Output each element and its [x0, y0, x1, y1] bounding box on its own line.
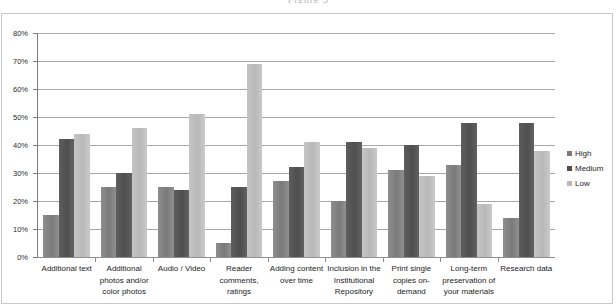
y-tick-label: 0% — [2, 253, 28, 262]
y-tick-label: 60% — [2, 85, 28, 94]
x-axis-label-line: over time — [264, 275, 329, 287]
x-axis-label-line: ratings — [206, 286, 271, 298]
bar-medium — [461, 123, 477, 257]
category-separator — [498, 258, 499, 262]
legend-swatch-icon — [567, 151, 572, 156]
x-axis-label-line: photos and/or — [91, 275, 156, 287]
bar-high — [388, 170, 404, 257]
x-axis-label-line: demand — [379, 286, 444, 298]
legend-label: Medium — [575, 164, 603, 173]
bar-low — [477, 204, 493, 257]
x-axis-label-line: Additional — [91, 263, 156, 275]
category-separator — [95, 258, 96, 262]
bar-low — [247, 64, 263, 257]
bar-medium — [346, 142, 362, 257]
bar-medium — [59, 139, 75, 257]
bar-high — [503, 218, 519, 257]
x-axis-label: Additional text — [34, 263, 99, 275]
y-tick-label: 20% — [2, 197, 28, 206]
bar-low — [132, 128, 148, 257]
bar-medium — [174, 190, 190, 257]
legend-item-low[interactable]: Low — [567, 176, 603, 191]
figure-caption: Figure 3 — [0, 0, 616, 3]
legend-item-medium[interactable]: Medium — [567, 161, 603, 176]
x-axis-label: Adding contentover time — [264, 263, 329, 286]
x-axis-label: Additionalphotos and/orcolor photos — [91, 263, 156, 298]
x-axis-label-line: Inclusion in the — [321, 263, 386, 275]
y-tick-label: 80% — [2, 29, 28, 38]
category-separator — [153, 258, 154, 262]
y-tick-label: 10% — [2, 225, 28, 234]
x-axis-label: Long-termpreservation ofyour materials — [436, 263, 501, 298]
bar-high — [101, 187, 117, 257]
bar-group — [210, 33, 267, 257]
y-tick-mark — [33, 173, 37, 174]
bar-low — [362, 148, 378, 257]
x-axis-label: Print singlecopies on-demand — [379, 263, 444, 298]
x-axis-label: Readercomments,ratings — [206, 263, 271, 298]
x-axis-label-line: your materials — [436, 286, 501, 298]
legend: HighMediumLow — [567, 146, 603, 191]
bar-group — [38, 33, 95, 257]
y-tick-mark — [33, 61, 37, 62]
x-axis-label-line: comments, — [206, 275, 271, 287]
legend-label: Low — [575, 179, 590, 188]
bar-group — [153, 33, 210, 257]
category-separator — [383, 258, 384, 262]
y-tick-mark — [33, 117, 37, 118]
gridline — [38, 257, 555, 258]
bar-group — [498, 33, 555, 257]
x-axis-label: Audio / Video — [149, 263, 214, 275]
bar-group — [383, 33, 440, 257]
x-axis-label-line: Research data — [494, 263, 559, 275]
bar-low — [534, 151, 550, 257]
y-tick-mark — [33, 145, 37, 146]
bar-group — [440, 33, 497, 257]
bar-group — [95, 33, 152, 257]
x-axis-label-line: Institutional — [321, 275, 386, 287]
legend-swatch-icon — [567, 166, 572, 171]
bar-high — [446, 165, 462, 257]
bar-low — [304, 142, 320, 257]
bar-low — [189, 114, 205, 257]
y-tick-mark — [33, 89, 37, 90]
y-tick-mark — [33, 229, 37, 230]
bar-medium — [404, 145, 420, 257]
x-axis-label: Research data — [494, 263, 559, 275]
x-axis-label: Inclusion in theInstitutionalRepository — [321, 263, 386, 298]
bar-high — [43, 215, 59, 257]
bar-group — [325, 33, 382, 257]
y-tick-label: 40% — [2, 141, 28, 150]
legend-item-high[interactable]: High — [567, 146, 603, 161]
bar-medium — [231, 187, 247, 257]
bar-high — [216, 243, 232, 257]
bar-high — [331, 201, 347, 257]
bar-medium — [289, 167, 305, 257]
bar-low — [419, 176, 435, 257]
x-axis-label-line: Long-term — [436, 263, 501, 275]
y-tick-label: 70% — [2, 57, 28, 66]
x-axis-label-line: Adding content — [264, 263, 329, 275]
bar-medium — [519, 123, 535, 257]
legend-swatch-icon — [567, 181, 572, 186]
x-axis-label-line: color photos — [91, 286, 156, 298]
x-axis-label-line: Reader — [206, 263, 271, 275]
legend-label: High — [575, 149, 591, 158]
x-axis-label-line: Additional text — [34, 263, 99, 275]
bar-medium — [116, 173, 132, 257]
category-separator — [210, 258, 211, 262]
y-tick-mark — [33, 257, 37, 258]
category-separator — [440, 258, 441, 262]
y-tick-label: 50% — [2, 113, 28, 122]
plot-area — [38, 33, 555, 257]
category-separator — [268, 258, 269, 262]
category-separator — [325, 258, 326, 262]
x-axis-label-line: preservation of — [436, 275, 501, 287]
chart-frame: 0%10%20%30%40%50%60%70%80% Additional te… — [1, 13, 613, 304]
bar-high — [158, 187, 174, 257]
y-tick-mark — [33, 33, 37, 34]
y-tick-mark — [33, 201, 37, 202]
x-axis-label-line: Print single — [379, 263, 444, 275]
x-axis-label-line: Repository — [321, 286, 386, 298]
bar-high — [273, 181, 289, 257]
